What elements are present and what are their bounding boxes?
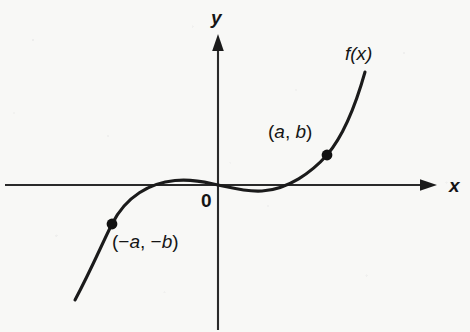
y-axis — [212, 34, 224, 330]
origin-label: 0 — [201, 191, 212, 210]
y-axis-arrowhead-icon — [212, 34, 224, 51]
point-a-b-x: a — [274, 121, 285, 142]
point-neg-a-neg-b-dot — [107, 219, 118, 230]
point-a-b-label: (a, b) — [268, 122, 312, 141]
y-axis-label: y — [211, 8, 222, 27]
x-axis-arrowhead-icon — [420, 179, 437, 191]
point-neg-a-neg-b-x: a — [129, 231, 140, 252]
figure-canvas: y x 0 f(x) (a, b) (−a, −b) — [0, 0, 470, 332]
point-neg-a-neg-b-sep: , − — [140, 231, 162, 252]
point-a-b-sep: , — [285, 121, 296, 142]
point-a-b-close: ) — [306, 121, 312, 142]
point-neg-a-neg-b-y: b — [162, 231, 173, 252]
point-a-b-dot — [322, 150, 333, 161]
function-graph-svg — [0, 0, 470, 332]
point-a-b-y: b — [295, 121, 306, 142]
point-neg-a-neg-b-open: (− — [112, 231, 129, 252]
x-axis-label: x — [449, 176, 460, 195]
point-neg-a-neg-b-label: (−a, −b) — [112, 232, 179, 251]
function-label: f(x) — [345, 44, 372, 63]
point-neg-a-neg-b-close: ) — [172, 231, 178, 252]
